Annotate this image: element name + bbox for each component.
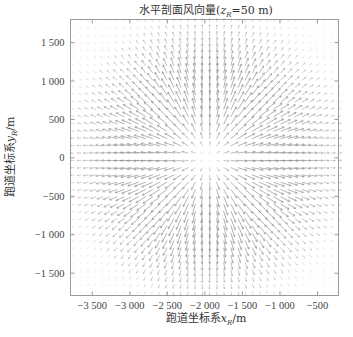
vector-arrow — [331, 79, 333, 80]
vector-arrow — [126, 233, 131, 238]
vector-arrow — [109, 292, 110, 293]
vector-arrow — [324, 43, 325, 44]
vector-arrow — [87, 241, 89, 242]
vector-arrow — [87, 263, 88, 264]
vector-arrow — [302, 28, 303, 29]
vector-arrow — [309, 35, 310, 36]
vector-arrow — [238, 116, 245, 124]
vector-arrow — [331, 28, 332, 29]
vector-arrow — [102, 285, 103, 286]
vector-arrow — [245, 292, 246, 295]
vector-arrow — [317, 255, 319, 256]
vector-arrow — [331, 226, 333, 227]
vector-arrow — [288, 219, 294, 224]
vector-arrow — [145, 212, 153, 219]
vector-arrow — [117, 105, 124, 109]
vector-arrow — [295, 255, 298, 258]
vector-arrow — [108, 49, 110, 51]
vector-arrow — [72, 101, 74, 102]
vector-arrow — [274, 103, 282, 109]
vector-arrow — [252, 241, 256, 249]
vector-arrow — [281, 204, 289, 209]
vector-arrow — [309, 263, 311, 265]
vector-arrow — [127, 76, 132, 80]
vector-arrow — [210, 160, 211, 161]
vector-arrow — [281, 82, 286, 87]
vector-arrow — [224, 190, 228, 198]
vector-arrow — [324, 64, 326, 65]
vector-arrow — [95, 28, 96, 29]
vector-arrow — [260, 94, 267, 102]
vector-arrow — [151, 285, 152, 288]
vector-arrow — [295, 21, 296, 22]
vector-arrow — [317, 43, 318, 44]
vector-arrow — [73, 21, 74, 22]
vector-arrow — [302, 277, 303, 278]
vector-arrow — [88, 28, 89, 29]
vector-arrow — [87, 270, 88, 271]
ylabel-prefix: 跑道坐标系 — [3, 142, 17, 197]
vector-arrow — [183, 124, 189, 131]
vector-arrow — [95, 292, 96, 293]
vector-arrow — [288, 41, 290, 43]
vector-arrow — [155, 233, 160, 241]
vector-arrow — [114, 241, 117, 244]
vector-arrow — [331, 86, 333, 87]
vector-arrow — [260, 197, 269, 204]
vector-arrow — [152, 292, 153, 294]
vector-arrow — [80, 255, 81, 256]
vector-arrow — [274, 74, 279, 80]
x-tick-label: −2 000 — [190, 300, 220, 311]
vector-arrow — [73, 263, 74, 264]
vector-arrow — [123, 21, 124, 22]
vector-arrow — [317, 241, 319, 243]
vector-arrow — [131, 212, 139, 218]
vector-arrow — [267, 67, 271, 73]
vector-arrow — [153, 219, 160, 227]
vector-arrow — [94, 50, 95, 51]
vector-arrow — [331, 277, 332, 278]
vector-arrow — [217, 160, 220, 161]
vector-arrow — [252, 233, 257, 241]
vector-arrow — [231, 197, 237, 206]
vector-arrow — [245, 125, 254, 131]
vector-arrow — [224, 124, 229, 131]
vector-arrow — [123, 204, 131, 209]
vector-arrow — [152, 101, 160, 109]
vector-arrow — [156, 66, 160, 73]
vector-arrow — [122, 270, 124, 272]
vector-arrow — [95, 43, 96, 44]
vector-arrow — [162, 79, 167, 88]
vector-arrow — [158, 197, 167, 205]
vector-arrow — [309, 21, 310, 22]
vector-arrow — [95, 285, 96, 286]
vector-arrow — [72, 226, 74, 227]
vector-arrow — [166, 292, 167, 295]
vector-arrow — [252, 101, 260, 109]
vector-arrow — [288, 90, 294, 95]
vector-arrow — [302, 292, 303, 293]
vector-arrow — [324, 233, 326, 235]
vector-arrow — [302, 70, 305, 73]
vector-arrow — [123, 277, 124, 279]
vector-arrow — [274, 285, 275, 287]
vector-arrow — [324, 241, 326, 242]
vector-arrow — [175, 197, 181, 206]
vector-arrow — [122, 41, 124, 43]
vector-arrow — [109, 285, 110, 286]
vector-arrow — [95, 21, 96, 22]
vector-arrow — [245, 108, 253, 117]
vector-arrow — [274, 96, 281, 102]
vector-arrow — [309, 255, 311, 257]
vector-arrow — [123, 292, 124, 293]
vector-arrow — [140, 81, 146, 87]
vector-arrow — [224, 115, 228, 124]
vector-arrow — [101, 64, 103, 66]
vector-arrow — [72, 212, 74, 213]
vector-arrow — [245, 197, 253, 205]
vector-arrow — [288, 292, 289, 293]
vector-arrow — [161, 219, 167, 228]
vector-arrow — [137, 103, 145, 109]
vector-arrow — [123, 35, 124, 37]
vector-arrow — [93, 241, 95, 243]
